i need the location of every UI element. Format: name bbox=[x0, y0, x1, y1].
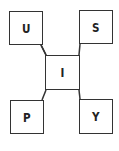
node-label: Y bbox=[92, 109, 100, 124]
node-label: U bbox=[22, 21, 30, 36]
node-label: P bbox=[23, 110, 31, 125]
node-top-left: U bbox=[9, 11, 43, 45]
node-center: I bbox=[45, 55, 80, 90]
node-label: S bbox=[92, 20, 100, 35]
node-label: I bbox=[61, 65, 65, 80]
node-bottom-right: Y bbox=[79, 99, 113, 134]
node-top-right: S bbox=[79, 10, 113, 44]
node-bottom-left: P bbox=[10, 100, 44, 134]
